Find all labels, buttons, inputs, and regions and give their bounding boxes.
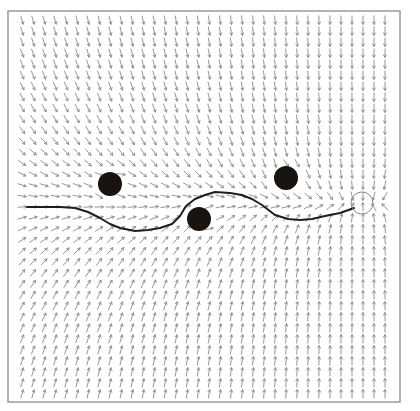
vector-field-plot [0, 0, 420, 411]
obstacle-3 [274, 166, 298, 190]
field-arrow [140, 237, 146, 243]
obstacle-2 [187, 207, 211, 231]
field-arrow [129, 237, 135, 243]
vector-field-figure [0, 0, 420, 411]
field-arrow [52, 149, 58, 155]
field-arrow [63, 149, 69, 155]
field-arrow [250, 182, 256, 188]
field-arrow [85, 248, 91, 255]
field-arrow [184, 171, 190, 177]
goal-circle [351, 192, 373, 214]
field-arrow [382, 204, 388, 210]
field-arrow [316, 193, 322, 199]
field-arrow [19, 259, 25, 265]
field-arrow [63, 248, 69, 254]
field-arrow [41, 149, 47, 155]
field-arrow [129, 160, 135, 166]
field-arrow [74, 248, 80, 254]
field-arrow [195, 171, 201, 178]
field-arrow [184, 226, 191, 232]
obstacle-1 [98, 172, 122, 196]
